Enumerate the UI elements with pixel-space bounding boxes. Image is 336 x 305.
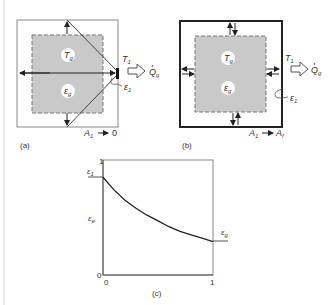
heat-flow-label-b: Qg xyxy=(311,65,322,76)
dot-accent-b xyxy=(314,63,316,65)
wall-temperature-label-a: T1 xyxy=(122,54,131,65)
area-limit-var-a: A1 xyxy=(83,128,93,139)
panel-b: Tg εg T1 Qg ε1 A1 Af (b) xyxy=(180,21,322,150)
heat-flow-arrow-a xyxy=(128,64,145,78)
small-surface-a xyxy=(116,68,119,79)
wall-temperature-label-b: T1 xyxy=(285,53,294,64)
area-limit-value-b: Af xyxy=(275,128,285,139)
plot-frame xyxy=(103,160,213,275)
y-axis-label: εe xyxy=(88,214,96,224)
heat-flow-arrow-b xyxy=(291,62,308,76)
left-value-label: ε1 xyxy=(87,167,94,177)
wall-emissivity-label-b: ε1 xyxy=(290,93,297,104)
panel-a: Tg εg T1 Qg ε1 A1 0 (a) xyxy=(17,20,160,150)
area-limit-value-a: 0 xyxy=(112,128,117,138)
x-tick-left: 0 xyxy=(104,278,109,287)
area-limit-var-b: A1 xyxy=(248,128,258,139)
y-tick-bottom: 0 xyxy=(97,271,102,280)
caption-c: (c) xyxy=(152,289,162,298)
radiation-exchange-figure: Tg εg T1 Qg ε1 A1 0 (a) Tg εg xyxy=(0,0,336,305)
wall-emissivity-label-a: ε1 xyxy=(124,82,131,93)
panel-c-chart: 1 0 0 1 ε1 εg εe (c) xyxy=(87,157,229,298)
x-tick-right: 1 xyxy=(210,278,215,287)
caption-b: (b) xyxy=(182,141,192,150)
dot-accent-a xyxy=(152,65,154,67)
emissivity-curve xyxy=(103,177,213,241)
y-tick-top: 1 xyxy=(99,157,104,166)
heat-flow-label-a: Qg xyxy=(149,67,160,78)
right-value-label: εg xyxy=(221,228,229,238)
caption-a: (a) xyxy=(20,141,30,150)
gas-volume-b xyxy=(195,36,266,112)
